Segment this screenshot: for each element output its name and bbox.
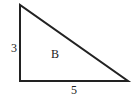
interior-label: B — [51, 47, 59, 61]
triangle-diagram: 3 B 5 — [0, 0, 134, 96]
vertical-side-label: 3 — [11, 41, 17, 55]
right-triangle — [20, 5, 128, 81]
horizontal-side-label: 5 — [71, 83, 77, 96]
